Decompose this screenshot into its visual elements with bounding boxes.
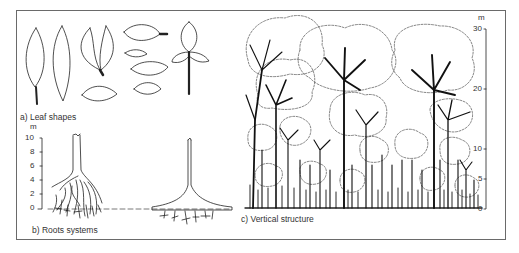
- vertical-scale-unit: m: [478, 13, 485, 22]
- roots-tick-4: 4: [30, 175, 34, 184]
- roots-tick-2: 2: [30, 189, 34, 198]
- vertical-tick-30: 30: [473, 24, 482, 33]
- roots-scale-unit: m: [30, 122, 37, 131]
- roots-tick-6: 6: [30, 161, 34, 170]
- root-system-1: [52, 134, 102, 218]
- forest-canopy: [246, 16, 479, 198]
- caption-vertical-structure: c) Vertical structure: [241, 214, 314, 224]
- vertical-tick-20: 20: [473, 84, 482, 93]
- roots-tick-0: 0: [30, 203, 34, 212]
- vertical-tick-5: 5: [478, 174, 482, 183]
- caption-roots-systems: b) Roots systems: [32, 225, 98, 235]
- leaf-shapes-illustration: [26, 22, 209, 104]
- vertical-scale-axis: [484, 29, 486, 209]
- vertical-tick-10: 10: [473, 144, 482, 153]
- caption-leaf-shapes: a) Leaf shapes: [20, 112, 76, 122]
- roots-tick-10: 10: [25, 133, 34, 142]
- root-system-2-buttress: [152, 138, 232, 224]
- vertical-tick-0: 0: [478, 204, 482, 213]
- forest-trunks: [246, 40, 478, 208]
- roots-scale-axis: [38, 138, 42, 209]
- roots-tick-8: 8: [30, 147, 34, 156]
